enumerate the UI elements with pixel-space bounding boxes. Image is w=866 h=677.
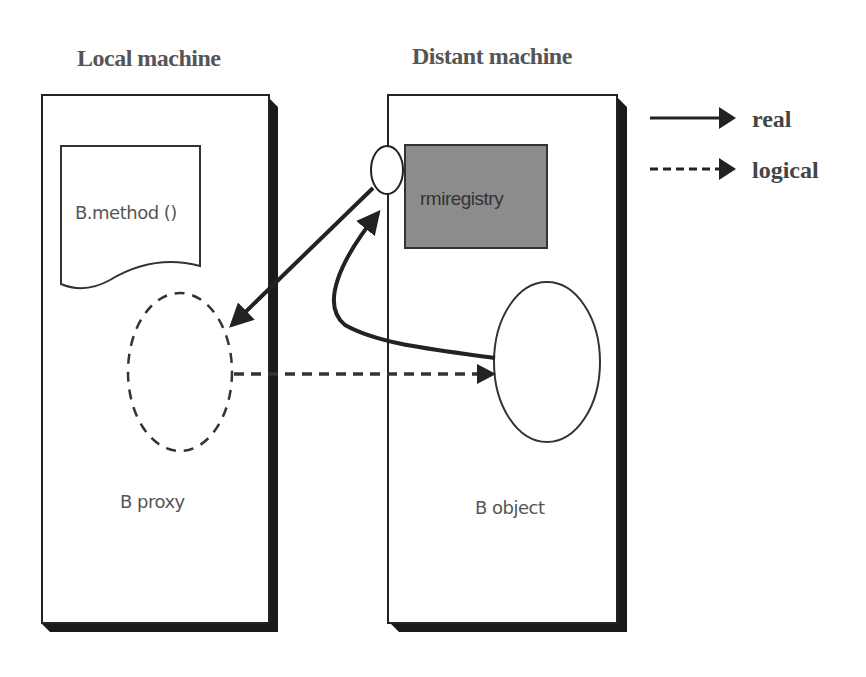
legend-logical-arrowhead-icon — [719, 158, 736, 180]
legend-logical-label: logical — [752, 157, 819, 183]
legend-real-label: real — [752, 106, 792, 132]
object-circle — [494, 282, 600, 442]
distant-machine-title: Distant machine — [412, 43, 573, 69]
method-call-label: B.method () — [75, 202, 177, 223]
legend-real-arrowhead-icon — [719, 107, 736, 129]
legend: real logical — [650, 106, 819, 183]
registry-port-circle — [371, 146, 403, 194]
object-label: B object — [475, 497, 545, 518]
rmi-diagram: Local machine Distant machine B.method (… — [0, 0, 866, 677]
local-machine-title: Local machine — [77, 45, 221, 71]
proxy-label: B proxy — [120, 491, 186, 512]
rmiregistry-label: rmiregistry — [420, 188, 504, 209]
